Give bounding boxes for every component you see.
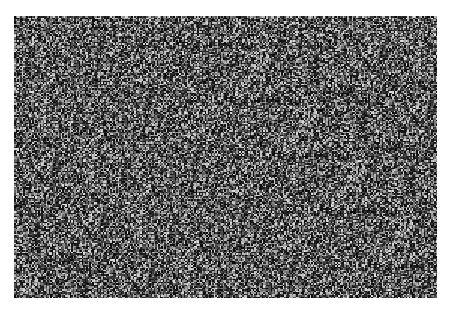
- noise-image: [14, 16, 437, 298]
- noise-canvas: [14, 16, 437, 298]
- page-background: [0, 0, 452, 309]
